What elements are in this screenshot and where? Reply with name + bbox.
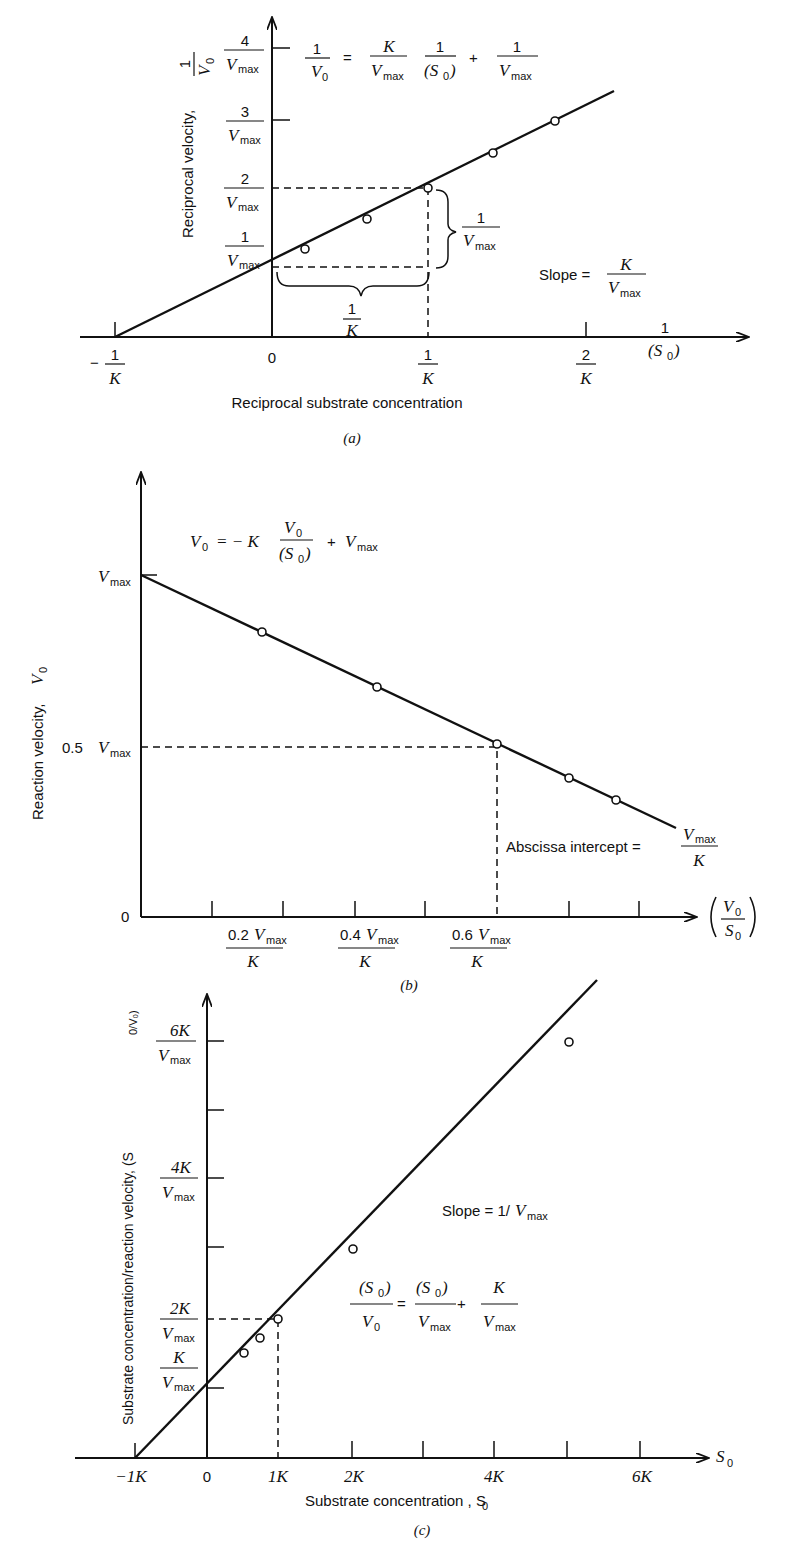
panel-a-data-point [489,149,497,157]
subscript: 0 [37,667,49,673]
xtick-den: K [246,952,260,971]
frac-num: (S [359,1278,374,1297]
xtick-label: 6K [632,1467,654,1486]
ytick-num: 1 [241,228,249,245]
frac-den: (S [279,544,294,563]
panel-c-y-label: Substrate concentration/reaction velocit… [120,1152,136,1425]
frac-den: (S [424,61,439,80]
ytick-num: 4K [171,1158,193,1177]
paren: ) [304,544,311,563]
subscript: 0 [374,1321,380,1333]
subscript: max [511,70,532,82]
minus-sign: − [90,354,99,371]
subscript: max [240,134,261,146]
ytick-num: 2K [170,1299,192,1318]
ytick-num: 3 [241,103,249,120]
xtick-num: 0.2 [228,926,249,943]
subscript: 0 [435,1287,441,1299]
subscript: max [527,1210,548,1222]
ytick-num: 2 [241,170,249,187]
subscript: 0 [298,553,304,565]
xtick-label: −1K [115,1467,148,1486]
frac-num: K [619,255,633,274]
subscript: 0 [202,541,208,553]
xtick-label: 2K [344,1467,366,1486]
ylabel-tail: 0/V₀) [127,1010,139,1035]
subscript: 0 [482,1500,488,1512]
xtick-num: 1 [424,346,432,363]
panel-c-slope-label: Slope = 1/ [442,1202,511,1219]
frac-num: 1 [513,38,521,55]
subscript: 0 [667,350,673,362]
panel-b-abscissa-label: Abscissa intercept = [506,838,641,855]
panel-b-caption: (b) [400,977,418,994]
subscript: max [490,934,511,946]
frac-num: 1 [176,60,193,68]
panel-c-data-point [349,1245,357,1253]
ytick-num: 4 [241,32,249,49]
subscript: max [239,259,260,271]
xtick-num: 0.6 [452,926,473,943]
x-symbol-den: (S [648,341,663,360]
panel-b-data-point [565,774,573,782]
subscript: 0 [727,1457,733,1469]
panel-b-eadie-hofstee: V 0 = − K V 0 (S 0 ) + V max V max 0.5 V… [28,473,755,994]
subscript: max [266,934,287,946]
subscript: max [378,934,399,946]
subscript: max [170,1054,191,1066]
panel-a-xtick-labels: − 1 K 0 1 K 2 K 1 (S 0 ) [90,319,680,388]
panel-b-data-point [373,683,381,691]
frac-num: 1 [477,209,485,226]
panel-c-ytick-labels: 6K V max 4K V max 2K V max K V max [156,1021,198,1393]
panel-a-brace-den: K [345,321,359,340]
paren: ) [441,1278,448,1297]
panel-a-data-point [301,245,309,253]
frac-den: K [692,851,706,870]
panel-a-ytick-labels: 4 V max 3 V max 2 V max 1 V max [224,32,264,271]
panel-a-data-point [424,184,432,192]
panel-b-guide-half-vmax [141,747,497,917]
xtick-zero: 0 [268,349,276,366]
panel-c-equation: (S 0 ) V 0 = (S 0 ) V max + K V max [350,1278,518,1333]
subscript: max [695,833,716,845]
subscript: max [495,1321,516,1333]
panel-c-data-point [565,1038,573,1046]
panel-a-brace-horizontal [277,272,429,296]
panel-b-data-point [493,740,501,748]
panel-a-x-label: Reciprocal substrate concentration [232,394,463,411]
panel-b-ytick-zero: 0 [121,908,129,925]
subscript: 0 [735,906,741,918]
panel-a-equation: 1 V 0 = K V max 1 (S 0 ) + 1 V max [305,37,538,83]
subscript: 0 [322,71,328,83]
x-symbol-den-s: S [725,921,734,940]
panel-c-hanes-woolf: 6K V max 4K V max 2K V max K V max Subst… [75,980,733,1539]
panel-b-ytick-half: 0.5 [62,739,83,756]
panel-a-brace-vertical [436,190,456,268]
panel-c-caption: (c) [414,1522,431,1539]
ytick-num: K [172,1348,186,1367]
subscript: 0 [735,930,741,942]
xtick-label: 1K [268,1467,290,1486]
frac-num: K [492,1278,506,1297]
panel-a-data-point [551,117,559,125]
x-symbol-num: 1 [661,319,669,336]
xtick-den: K [470,952,484,971]
frac-num: 1 [313,40,321,57]
xtick-label: 4K [484,1467,506,1486]
paren: ) [449,61,456,80]
plus: + [327,533,336,550]
panel-a-y-label: Reciprocal velocity, [179,110,196,238]
subscript: max [430,1321,451,1333]
plus: + [469,49,478,66]
frac-num: (S [416,1278,431,1297]
xtick-den: K [358,952,372,971]
xtick-label: 0 [203,1468,211,1485]
xtick-num: 1 [111,346,119,363]
panel-c-data-point [240,1349,248,1357]
paren: ) [673,341,680,360]
subscript: 0 [204,58,216,64]
xtick-num: 0.4 [340,926,361,943]
subscript: max [238,63,259,75]
xtick-den: K [579,369,593,388]
plus: + [457,1295,466,1312]
